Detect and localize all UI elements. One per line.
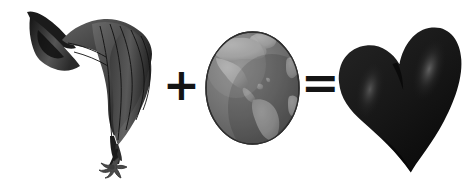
plus-operator: + [163,63,200,107]
illustration-canvas: Cloth plus Globe equals Heart [0,0,470,182]
equals-operator: = [301,60,340,106]
heart-shape [0,0,470,182]
